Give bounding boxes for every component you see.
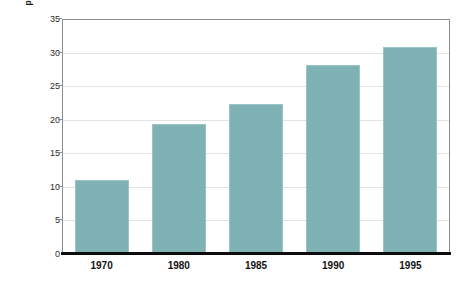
y-tick-label-0: 0 [36,248,60,260]
y-tick-label-35: 35 [36,13,60,25]
x-tick-label-1980: 1980 [149,259,209,273]
y-axis-title-text: Single-parent families as a percentage o… [12,0,34,6]
y-tick-label-30: 30 [36,47,60,59]
bar-1980[interactable] [152,124,206,254]
y-tick-label-5: 5 [36,214,60,226]
bar-chart-figure: Single-parent families as a percentage o… [0,0,467,288]
y-axis-title-line-2: percentage of families with children [23,0,34,6]
bar-1985[interactable] [229,104,283,254]
x-tick-label-1970: 1970 [72,259,132,273]
x-axis-labels: 19701980198519901995 [63,259,449,279]
x-tick-label-1985: 1985 [226,259,286,273]
bar-1995[interactable] [383,47,437,254]
y-axis-title: Single-parent families as a percentage o… [8,0,38,49]
y-tick-label-10: 10 [36,181,60,193]
x-axis-baseline [61,252,451,255]
bars-container [63,20,449,254]
x-tick-label-1995: 1995 [380,259,440,273]
bar-1990[interactable] [306,65,360,254]
x-tick-label-1990: 1990 [303,259,363,273]
y-tick-label-25: 25 [36,80,60,92]
bar-1970[interactable] [75,180,129,254]
y-tick-label-15: 15 [36,147,60,159]
y-tick-label-20: 20 [36,114,60,126]
